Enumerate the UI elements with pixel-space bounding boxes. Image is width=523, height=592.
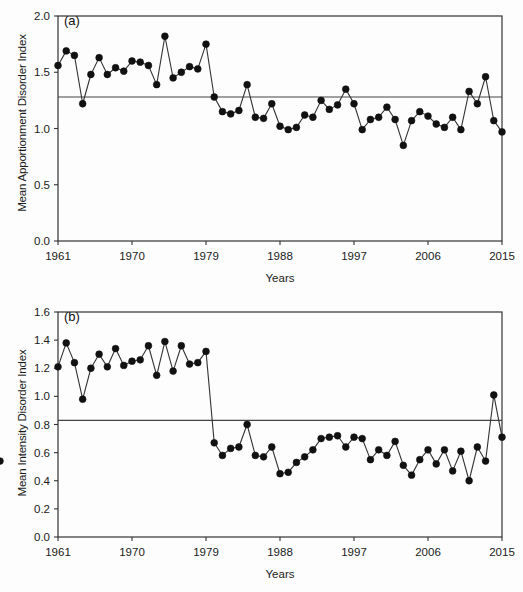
data-point [252, 452, 259, 459]
x-tick-label: 1997 [341, 250, 367, 262]
x-tick-label: 2015 [489, 546, 515, 558]
data-point [252, 114, 259, 121]
plot-area-b: 0.00.20.40.60.81.01.21.41.61961197019791… [0, 296, 523, 592]
data-point [170, 74, 177, 81]
x-tick-label: 1979 [193, 546, 219, 558]
x-tick-label: 1961 [45, 546, 71, 558]
data-point [334, 101, 341, 108]
data-point [277, 123, 284, 130]
data-point [227, 445, 234, 452]
data-point [449, 468, 456, 475]
data-point [211, 439, 218, 446]
data-point [474, 444, 481, 451]
data-point [235, 107, 242, 114]
data-point [367, 116, 374, 123]
data-point [490, 117, 497, 124]
data-point [433, 460, 440, 467]
chart-panel-b: 0.00.20.40.60.81.01.21.41.61961197019791… [0, 296, 523, 592]
x-tick-label: 2006 [415, 546, 441, 558]
data-point [145, 342, 152, 349]
x-tick-label: 2006 [415, 250, 441, 262]
data-point [129, 358, 136, 365]
data-point [499, 128, 506, 135]
data-point [244, 81, 251, 88]
data-point [293, 459, 300, 466]
data-point [309, 114, 316, 121]
data-point [408, 117, 415, 124]
data-point [416, 456, 423, 463]
data-point [87, 71, 94, 78]
data-point [441, 446, 448, 453]
data-point [203, 348, 210, 355]
data-point [137, 59, 144, 66]
data-point [375, 446, 382, 453]
data-point [326, 434, 333, 441]
data-point [392, 438, 399, 445]
data-point [194, 65, 201, 72]
y-tick-label: 0.6 [34, 447, 50, 459]
x-tick-label: 1988 [267, 250, 293, 262]
data-point [71, 52, 78, 59]
data-point [466, 88, 473, 95]
data-point [342, 444, 349, 451]
data-point [449, 114, 456, 121]
data-point [129, 58, 136, 65]
data-point [260, 115, 267, 122]
data-point [170, 368, 177, 375]
x-tick-label: 1979 [193, 250, 219, 262]
x-axis-label-b: Years [58, 568, 502, 580]
data-point [309, 446, 316, 453]
data-point [112, 345, 119, 352]
x-tick-label: 1961 [45, 250, 71, 262]
data-point [482, 73, 489, 80]
data-point [0, 458, 3, 465]
data-point [400, 462, 407, 469]
panel-tag-b: (b) [64, 309, 80, 324]
data-point [277, 470, 284, 477]
y-tick-label: 1.0 [34, 390, 50, 402]
data-point [186, 361, 193, 368]
data-point [145, 62, 152, 69]
data-point [359, 435, 366, 442]
data-point [326, 106, 333, 113]
data-point [63, 340, 70, 347]
data-point [342, 86, 349, 93]
data-point [383, 452, 390, 459]
data-point [383, 104, 390, 111]
data-point [178, 342, 185, 349]
y-tick-label: 0.0 [34, 531, 50, 543]
data-point [351, 434, 358, 441]
data-point [211, 94, 218, 101]
y-tick-label: 0.0 [34, 235, 50, 247]
data-point [457, 126, 464, 133]
x-tick-label: 1997 [341, 546, 367, 558]
data-point [260, 453, 267, 460]
data-point [318, 435, 325, 442]
data-point [318, 97, 325, 104]
plot-frame [58, 312, 502, 537]
data-point [400, 142, 407, 149]
data-point [301, 112, 308, 119]
data-point [285, 469, 292, 476]
data-point [63, 47, 70, 54]
y-tick-label: 1.0 [34, 123, 50, 135]
plot-area-a: 0.00.51.01.52.01961197019791988199720062… [0, 0, 523, 296]
data-point [433, 121, 440, 128]
y-tick-label: 0.5 [34, 179, 50, 191]
data-point [482, 458, 489, 465]
data-point [227, 110, 234, 117]
data-point [392, 116, 399, 123]
y-tick-label: 1.5 [34, 66, 50, 78]
data-point [112, 64, 119, 71]
data-point [161, 33, 168, 40]
data-point [161, 338, 168, 345]
y-axis-label-a: Mean Apportionment Disorder Index [16, 0, 34, 248]
data-point [375, 114, 382, 121]
y-tick-label: 1.6 [34, 306, 50, 318]
data-point [137, 356, 144, 363]
data-point [203, 41, 210, 48]
data-point [120, 68, 127, 75]
data-point [186, 63, 193, 70]
data-point [425, 446, 432, 453]
data-point [441, 124, 448, 131]
